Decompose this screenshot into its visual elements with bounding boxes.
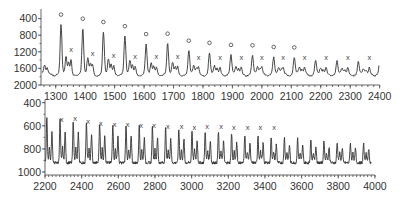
secondary-peak-x-marker: x [324, 53, 328, 62]
y-tick-label: 1000 [18, 166, 42, 178]
major-peak-o-marker [102, 20, 106, 24]
secondary-peak-x-marker: x [239, 53, 243, 62]
x-tick-label: 1500 [103, 90, 127, 102]
secondary-peak-x-marker: x [176, 52, 180, 61]
y-tick-label: 600 [23, 120, 41, 132]
bottom-peak-markers: xxxxxxxxxxxxxxxxx [60, 114, 277, 132]
secondary-peak-x-marker: x [197, 53, 201, 62]
secondary-peak-x-marker: x [346, 53, 350, 62]
x-tick-label: 1400 [73, 90, 97, 102]
x-tick-label: 2400 [70, 180, 94, 192]
secondary-peak-x-marker: x [259, 123, 263, 132]
secondary-peak-x-marker: x [303, 53, 307, 62]
major-peak-o-marker [59, 13, 63, 17]
y-tick-label: 2000 [14, 79, 38, 91]
major-peak-o-marker [251, 44, 255, 48]
major-peak-o-marker [166, 32, 170, 36]
secondary-peak-x-marker: x [166, 122, 170, 131]
secondary-peak-x-marker: x [112, 51, 116, 60]
secondary-peak-x-marker: x [272, 123, 276, 132]
secondary-peak-x-marker: x [218, 53, 222, 62]
secondary-peak-x-marker: x [139, 121, 143, 130]
y-tick-label: 400 [23, 97, 41, 109]
secondary-peak-x-marker: x [232, 123, 236, 132]
x-tick-label: 3200 [217, 180, 241, 192]
major-peak-o-marker [272, 45, 276, 49]
y-tick-label: 1200 [14, 46, 38, 58]
bottom-panel: xxxxxxxxxxxxxxxxx 1000800600400220024002… [18, 97, 387, 193]
major-peak-o-marker [229, 43, 233, 47]
secondary-peak-x-marker: x [60, 115, 64, 124]
x-tick-label: 1800 [191, 90, 215, 102]
x-tick-label: 3400 [253, 180, 277, 192]
x-tick-label: 1600 [132, 90, 156, 102]
secondary-peak-x-marker: x [152, 121, 156, 130]
secondary-peak-x-marker: x [193, 123, 197, 132]
secondary-peak-x-marker: x [99, 119, 103, 128]
x-tick-label: 1300 [44, 90, 68, 102]
x-tick-label: 1700 [162, 90, 186, 102]
x-tick-label: 3800 [327, 180, 351, 192]
x-tick-label: 1900 [221, 90, 245, 102]
secondary-peak-x-marker: x [281, 53, 285, 62]
secondary-peak-x-marker: x [205, 122, 209, 131]
x-tick-label: 3000 [180, 180, 204, 192]
secondary-peak-x-marker: x [368, 53, 372, 62]
secondary-peak-x-marker: x [260, 53, 264, 62]
major-peak-o-marker [81, 17, 85, 21]
x-tick-label: 2200 [33, 180, 57, 192]
x-tick-label: 2300 [339, 90, 363, 102]
secondary-peak-x-marker: x [246, 123, 250, 132]
major-peak-o-marker [144, 32, 148, 36]
top-peak-markers: xxxxxxxxxxxxxxx [59, 13, 371, 63]
x-tick-label: 2800 [143, 180, 167, 192]
major-peak-o-marker [293, 46, 297, 50]
y-tick-label: 800 [19, 29, 37, 41]
y-tick-label: 800 [23, 143, 41, 155]
y-tick-label: 400 [19, 12, 37, 24]
major-peak-o-marker [187, 39, 191, 43]
x-tick-label: 2200 [309, 90, 333, 102]
secondary-peak-x-marker: x [155, 52, 159, 61]
x-tick-label: 4000 [363, 180, 387, 192]
bottom-axes: 1000800600400220024002600280030003200340… [18, 97, 387, 193]
x-tick-label: 2600 [107, 180, 131, 192]
secondary-peak-x-marker: x [219, 122, 223, 131]
major-peak-o-marker [123, 24, 127, 28]
secondary-peak-x-marker: x [69, 45, 73, 54]
secondary-peak-x-marker: x [73, 114, 77, 123]
secondary-peak-x-marker: x [180, 122, 184, 131]
x-tick-label: 2000 [250, 90, 274, 102]
x-tick-label: 3600 [290, 180, 314, 192]
top-axes: 2000160012008004001300140015001600170018… [14, 9, 392, 102]
y-tick-label: 1600 [14, 62, 38, 74]
secondary-peak-x-marker: x [133, 52, 137, 61]
top-panel: xxxxxxxxxxxxxxx 200016001200800400130014… [14, 9, 392, 102]
x-tick-label: 2100 [280, 90, 304, 102]
chart-figure: xxxxxxxxxxxxxxx 200016001200800400130014… [0, 0, 406, 205]
secondary-peak-x-marker: x [126, 120, 130, 129]
major-peak-o-marker [208, 41, 212, 45]
secondary-peak-x-marker: x [86, 117, 90, 126]
secondary-peak-x-marker: x [91, 49, 95, 58]
x-tick-label: 2400 [368, 90, 392, 102]
secondary-peak-x-marker: x [113, 120, 117, 129]
